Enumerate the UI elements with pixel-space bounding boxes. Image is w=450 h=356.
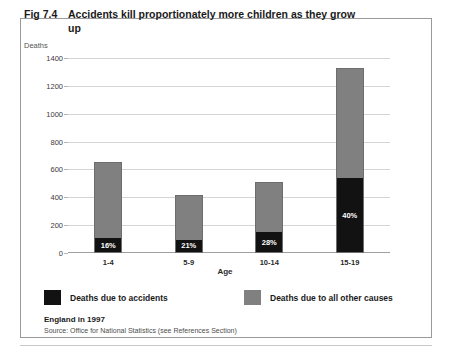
y-axis-tickmark	[64, 253, 68, 254]
x-axis-tick-label: 15-19	[324, 258, 376, 267]
y-axis-tick-label: 400	[50, 193, 63, 202]
y-axis-tick-label: 1400	[46, 54, 63, 63]
bar-group[interactable]: 40%15-19	[336, 68, 364, 253]
x-axis-tick-label: 1-4	[82, 258, 134, 267]
figure-footer: England in 1997 Source: Office for Natio…	[44, 315, 414, 334]
bar-segment-other-causes[interactable]: 21%	[175, 195, 203, 254]
bar-group[interactable]: 16%1-4	[94, 162, 122, 253]
x-axis-tick-label: 10-14	[243, 258, 295, 267]
legend-item[interactable]: Deaths due to accidents	[44, 288, 168, 306]
y-axis-tick-label: 600	[50, 165, 63, 174]
legend-swatch	[44, 290, 61, 305]
y-axis-label: Deaths	[24, 41, 48, 50]
bar-percentage-label: 40%	[337, 211, 363, 220]
figure-title-block: Fig 7.4Accidents kill proportionately mo…	[24, 8, 384, 35]
x-axis-tick-label: 5-9	[163, 258, 215, 267]
y-axis-tick-label: 200	[50, 221, 63, 230]
bar-group[interactable]: 21%5-9	[175, 195, 203, 254]
chart-legend: Deaths due to accidentsDeaths due to all…	[44, 288, 414, 308]
footer-divider	[20, 345, 432, 346]
legend-swatch	[244, 290, 261, 305]
legend-label: Deaths due to all other causes	[270, 293, 393, 303]
bar-segment-other-causes[interactable]: 40%	[336, 68, 364, 253]
x-axis-title: Age	[0, 267, 450, 276]
figure-number: Fig 7.4	[24, 8, 68, 20]
legend-label: Deaths due to accidents	[70, 293, 168, 303]
footer-main-text: England in 1997	[44, 315, 414, 324]
bar-segment-other-causes[interactable]: 16%	[94, 162, 122, 253]
y-axis-tick-label: 0	[59, 249, 63, 258]
page-title: Accidents kill proportionately more chil…	[68, 8, 368, 35]
bar-segment-other-causes[interactable]: 28%	[255, 182, 283, 253]
bar-percentage-label: 21%	[176, 241, 202, 250]
bar-series-container: 16%1-421%5-928%10-1440%15-19	[68, 58, 390, 253]
bar-group[interactable]: 28%10-14	[255, 182, 283, 253]
legend-item[interactable]: Deaths due to all other causes	[244, 288, 393, 306]
chart-plot-area: 0200400600800100012001400 16%1-421%5-928…	[68, 58, 390, 253]
y-axis-tick-label: 1000	[46, 109, 63, 118]
footer-source-text: Source: Office for National Statistics (…	[44, 327, 414, 334]
bar-percentage-label: 28%	[256, 238, 282, 247]
y-axis-tick-label: 1200	[46, 81, 63, 90]
bar-percentage-label: 16%	[95, 241, 121, 250]
y-axis-tick-label: 800	[50, 137, 63, 146]
